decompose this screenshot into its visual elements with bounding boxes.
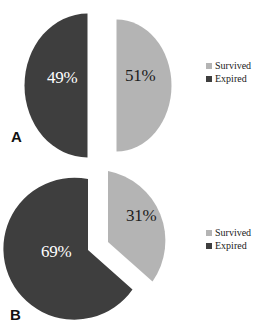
pie-label-a-expired: 49% — [47, 68, 78, 88]
legend-item-survived: Survived — [206, 228, 251, 238]
panel-letter-a: A — [11, 128, 22, 145]
legend-label-survived: Survived — [215, 61, 251, 71]
square-marker-icon — [206, 76, 212, 82]
pie-label-b-survived: 31% — [126, 206, 157, 226]
legend-item-expired: Expired — [206, 74, 251, 84]
pie-label-a-survived: 51% — [125, 66, 156, 86]
legend-label-expired: Expired — [215, 74, 247, 84]
panel-a: 49% 51% A Survived Expired — [0, 0, 264, 163]
legend-label-expired: Expired — [215, 241, 247, 251]
legend-a: Survived Expired — [206, 61, 251, 84]
legend-label-survived: Survived — [215, 228, 251, 238]
legend-item-expired: Expired — [206, 241, 251, 251]
panel-b: 69% 31% B Survived Expired — [0, 164, 264, 327]
legend-b: Survived Expired — [206, 228, 251, 251]
panel-letter-b: B — [10, 306, 21, 323]
pie-slice-b-survived — [108, 171, 165, 282]
square-marker-icon — [206, 230, 212, 236]
square-marker-icon — [206, 243, 212, 249]
square-marker-icon — [206, 63, 212, 69]
legend-item-survived: Survived — [206, 61, 251, 71]
pie-label-b-expired: 69% — [41, 242, 72, 262]
